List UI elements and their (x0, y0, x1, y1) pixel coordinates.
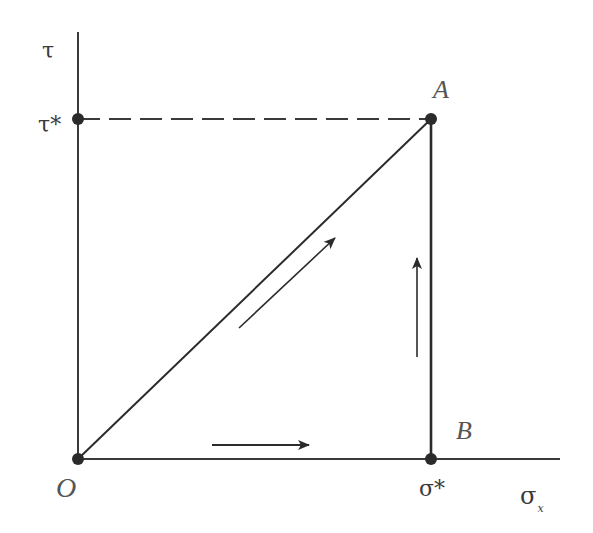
stress-path-diagram: τ τ* A B O σ* σx (0, 0, 593, 533)
sigma-x-symbol: σ (520, 482, 536, 510)
point-b-label: B (456, 418, 472, 444)
path-o-to-a (78, 119, 431, 459)
point-tau-star (72, 113, 84, 125)
diagram-graphics (0, 0, 593, 533)
point-origin (72, 453, 84, 465)
origin-label: O (56, 474, 76, 502)
arrow-diagonal-icon (239, 238, 335, 328)
sigma-x-axis-label: σx (520, 484, 543, 508)
sigma-star-label: σ* (419, 478, 445, 500)
tau-star-label: τ* (38, 114, 61, 136)
sigma-x-subscript: x (537, 502, 543, 515)
point-a (425, 113, 437, 125)
point-b (425, 453, 437, 465)
point-a-label: A (433, 77, 449, 103)
tau-axis-label: τ (42, 40, 54, 62)
